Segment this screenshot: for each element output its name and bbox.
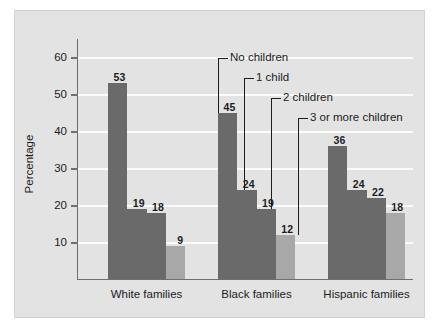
bar — [147, 213, 166, 279]
gridline — [78, 131, 413, 133]
y-tick-label: 30 — [54, 162, 67, 174]
bar — [347, 190, 366, 279]
y-tick-mark — [71, 94, 78, 96]
x-axis-category-label: Black families — [221, 288, 291, 300]
series-annotation-label: No children — [230, 51, 288, 63]
bar-value-label: 19 — [262, 197, 276, 209]
bar-value-label: 24 — [353, 178, 367, 190]
bar-value-label: 9 — [177, 234, 185, 246]
annotation-leader-line — [271, 98, 272, 209]
bar — [218, 113, 237, 279]
y-tick-label: 50 — [54, 88, 67, 100]
x-axis-category-label: Hispanic families — [323, 288, 409, 300]
series-annotation-label: 2 children — [283, 91, 333, 103]
annotation-leader-line — [218, 58, 219, 113]
y-tick-mark — [71, 242, 78, 244]
series-annotation-label: 3 or more children — [310, 111, 403, 123]
y-tick-label: 60 — [54, 51, 67, 63]
y-tick-mark — [71, 168, 78, 170]
y-tick-label: 40 — [54, 125, 67, 137]
bar — [237, 190, 256, 279]
bar — [386, 213, 405, 279]
annotation-leader-dash — [298, 118, 308, 119]
bar-value-label: 12 — [281, 223, 295, 235]
bar — [127, 209, 146, 279]
bar-value-label: 45 — [224, 101, 238, 113]
annotation-leader-dash — [271, 98, 281, 99]
series-annotation-label: 1 child — [256, 71, 289, 83]
chart-figure: Percentage 102030405060 5319189452419123… — [14, 10, 425, 318]
bar-value-label: 22 — [372, 186, 386, 198]
bar-value-label: 18 — [152, 201, 166, 213]
y-tick-label: 20 — [54, 199, 67, 211]
annotation-leader-dash — [218, 58, 228, 59]
annotation-leader-dash — [244, 78, 254, 79]
y-tick-label: 10 — [54, 236, 67, 248]
bar — [276, 235, 295, 279]
bar — [367, 198, 386, 279]
gridline — [78, 94, 413, 96]
bar-value-label: 18 — [391, 201, 405, 213]
annotation-leader-line — [244, 78, 245, 190]
bar — [166, 246, 185, 279]
bar-value-label: 36 — [334, 134, 348, 146]
y-tick-mark — [71, 205, 78, 207]
bar-value-label: 19 — [133, 197, 147, 209]
y-tick-mark — [71, 57, 78, 59]
bar — [257, 209, 276, 279]
y-tick-mark — [71, 131, 78, 133]
bar-value-label: 53 — [114, 71, 128, 83]
bar — [328, 146, 347, 279]
bar — [108, 83, 127, 279]
x-axis-category-label: White families — [111, 288, 183, 300]
plot-area: 102030405060 53191894524191236242218 Whi… — [77, 39, 413, 280]
annotation-leader-line — [298, 118, 299, 235]
gridline — [78, 168, 413, 170]
y-axis-title: Percentage — [23, 135, 35, 194]
